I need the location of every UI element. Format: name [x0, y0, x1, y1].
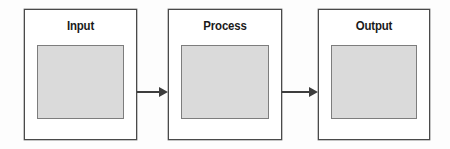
flow-diagram: Input Process Output	[0, 0, 450, 149]
arrow-head-icon	[159, 87, 168, 97]
stage-label-process: Process	[176, 19, 275, 33]
stage-inner-panel-input	[37, 45, 124, 119]
stage-label-input: Input	[32, 19, 130, 33]
stage-box-process: Process	[168, 9, 282, 140]
stage-inner-panel-process	[181, 45, 269, 119]
arrow-shaft	[282, 91, 310, 93]
stage-label-output: Output	[326, 19, 423, 33]
arrow-shaft	[137, 91, 160, 93]
stage-box-output: Output	[318, 9, 430, 140]
stage-inner-panel-output	[331, 45, 417, 119]
arrow-head-icon	[309, 87, 318, 97]
arrow-input-to-process	[137, 85, 168, 99]
arrow-process-to-output	[282, 85, 318, 99]
stage-box-input: Input	[24, 9, 137, 140]
